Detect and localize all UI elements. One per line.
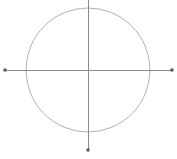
- figure-canvas: [0, 0, 177, 159]
- right-axis-endpoint-marker: [171, 69, 174, 72]
- left-axis-endpoint-marker: [4, 69, 7, 72]
- bottom-axis-endpoint-marker: [87, 149, 90, 152]
